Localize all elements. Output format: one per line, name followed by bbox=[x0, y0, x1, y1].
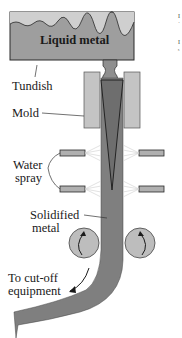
tundish-leader bbox=[35, 65, 37, 77]
solidified-label-2: metal bbox=[32, 221, 60, 235]
water-spray-bracket bbox=[48, 153, 60, 189]
cutoff-arrow bbox=[70, 268, 89, 291]
tundish-label: Tundish bbox=[12, 79, 53, 93]
cutoff-label-1: To cut-off bbox=[8, 271, 58, 285]
water-spray-label-1: Water bbox=[13, 158, 43, 172]
solidified-label-1: Solidified bbox=[30, 208, 79, 222]
mold-left bbox=[84, 72, 100, 128]
mold-label: Mold bbox=[12, 106, 39, 120]
corner-mark-4: ˢ bbox=[178, 46, 179, 55]
corner-mark-2: ˈ bbox=[178, 20, 180, 29]
mold-right bbox=[124, 72, 140, 128]
nozzle bbox=[102, 60, 118, 80]
liquid-metal-label: Liquid metal bbox=[40, 33, 109, 48]
water-spray-label-2: spray bbox=[15, 171, 42, 185]
cutoff-label-2: equipment bbox=[8, 284, 61, 298]
mold-leader bbox=[42, 113, 84, 116]
